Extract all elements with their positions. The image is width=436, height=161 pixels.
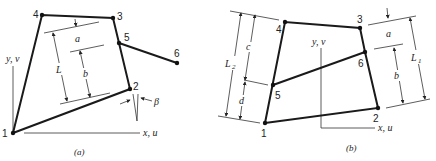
node-5 xyxy=(117,41,121,45)
y-axis-label: y, v xyxy=(5,53,20,64)
dim-ext-mid xyxy=(70,45,104,52)
dim-ext-bottom-left xyxy=(218,116,260,123)
node-4 xyxy=(40,13,44,17)
node-4-label: 4 xyxy=(33,9,39,20)
node-2-label: 2 xyxy=(133,81,139,92)
beta-ref-line-2 xyxy=(137,94,138,121)
beta-label: β xyxy=(153,96,159,107)
node-5 xyxy=(271,83,275,87)
node-2 xyxy=(128,87,132,91)
element-quad xyxy=(13,15,130,133)
node-3-label: 3 xyxy=(357,14,363,25)
diagram-canvas: y, v x, u 1 2 3 4 5 6 a L b xyxy=(0,0,436,161)
node-6 xyxy=(363,50,367,54)
node-4 xyxy=(283,20,287,24)
node-2 xyxy=(376,106,380,110)
node-4-label: 4 xyxy=(276,24,282,35)
element-bar-5-6 xyxy=(119,43,177,63)
node-1-label: 1 xyxy=(2,128,8,139)
node-6-label: 6 xyxy=(174,48,180,59)
x-axis-label: x, u xyxy=(142,127,157,138)
node-1 xyxy=(11,131,15,135)
panel-b: y, v x, u 1 2 3 4 5 6 L 2 c d xyxy=(218,8,430,153)
dim-ext-top xyxy=(44,22,99,33)
dim-b-label: b xyxy=(394,70,399,81)
x-axis-label: x, u xyxy=(377,122,392,133)
node-1 xyxy=(263,121,267,125)
node-6 xyxy=(175,61,179,65)
dim-a-arrow xyxy=(387,8,388,18)
caption-a: (a) xyxy=(74,147,85,157)
caption-b: (b) xyxy=(346,143,357,153)
dim-L2-subscript: 2 xyxy=(232,63,236,71)
dim-ext-mid-left xyxy=(244,80,268,85)
node-6-label: 6 xyxy=(358,58,364,69)
dim-a-label: a xyxy=(75,33,80,44)
y-axis-label: y, v xyxy=(311,36,326,47)
beta-ref-line-1 xyxy=(133,94,137,121)
dim-ext-top-right xyxy=(368,16,416,25)
dim-b-label: b xyxy=(83,68,88,79)
figure: y, v x, u 1 2 3 4 5 6 a L b xyxy=(0,0,436,161)
node-2-label: 2 xyxy=(373,113,379,124)
dim-ext-mid-right xyxy=(374,44,403,49)
dim-L1-subscript: 1 xyxy=(418,57,422,65)
panel-a: y, v x, u 1 2 3 4 5 6 a L b xyxy=(2,9,180,157)
dim-c-label: c xyxy=(246,41,251,52)
dim-a-arrow xyxy=(75,19,76,26)
beta-arrow-right xyxy=(141,98,152,101)
node-3 xyxy=(111,16,115,20)
element-edge-5-6 xyxy=(273,52,365,85)
beta-arrow-left xyxy=(120,100,130,104)
dim-L-label: L xyxy=(55,64,62,75)
dim-a-label: a xyxy=(386,28,391,39)
node-5-label: 5 xyxy=(124,32,130,43)
node-5-label: 5 xyxy=(275,90,281,101)
node-1-label: 1 xyxy=(261,128,267,139)
dim-ext-bottom-right xyxy=(386,99,430,108)
dim-L2-label: L xyxy=(224,58,231,69)
node-3-label: 3 xyxy=(117,11,123,22)
dim-L1-label: L xyxy=(410,52,417,63)
node-3 xyxy=(358,26,362,30)
